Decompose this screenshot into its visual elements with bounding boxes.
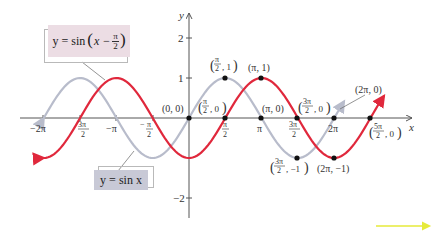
base-curve-legend: y = sin x [94, 170, 148, 190]
svg-text:2: 2 [376, 131, 380, 140]
svg-text:π: π [215, 55, 219, 64]
svg-text:): ) [326, 100, 331, 116]
xtick-minus-pi-2: −π2 [140, 120, 153, 139]
svg-text:2: 2 [223, 130, 227, 139]
svg-text:2: 2 [147, 130, 151, 139]
point-label-origin: (0, 0) [162, 103, 184, 115]
svg-text:2: 2 [203, 106, 207, 115]
paren-close: ) [120, 30, 126, 50]
svg-text:2: 2 [292, 130, 296, 139]
ytick-minus2: −2 [173, 192, 185, 204]
ytick-1: 1 [178, 72, 184, 84]
svg-text:3π: 3π [78, 120, 86, 129]
fraction-numerator: π [112, 32, 119, 42]
svg-text:): ) [222, 100, 227, 116]
svg-text:2: 2 [215, 64, 219, 73]
svg-text:3π: 3π [289, 120, 297, 129]
point-label-pi-0: (π, 0) [262, 103, 284, 115]
svg-text:5π: 5π [374, 122, 382, 131]
svg-text:π: π [203, 97, 207, 106]
point-label-pi2-1: (π2, 1) [210, 55, 238, 74]
xtick-pi: π [257, 123, 262, 134]
point-label-5pi2-0: (5π2, 0) [369, 122, 402, 141]
svg-text:, −1: , −1 [286, 164, 300, 174]
point-label-3pi2-0: (3π2, 0) [298, 97, 331, 116]
svg-text:π: π [223, 120, 227, 129]
svg-text:2: 2 [305, 106, 309, 115]
shifted-curve-legend: y = sin ( x − π 2 ) [48, 25, 130, 57]
shifted-legend-inner: x − [94, 34, 110, 49]
point-label-pi-1: (π, 1) [248, 62, 270, 74]
svg-text:, 0: , 0 [385, 129, 395, 139]
pi-over-2-fraction: π 2 [112, 32, 119, 51]
shifted-label-leader [82, 62, 105, 80]
y-axis-label: y [178, 9, 184, 21]
point-label-2pi-0: (2π, 0) [355, 84, 382, 96]
shifted-legend-prefix: y = sin [52, 34, 85, 49]
svg-text:, 1: , 1 [222, 62, 231, 72]
svg-text:, 0: , 0 [210, 104, 220, 114]
point-label-3pi2-minus1: (3π2, −1) [270, 157, 309, 176]
svg-text:3π: 3π [275, 157, 283, 166]
ytick-2: 2 [178, 32, 184, 44]
svg-text:): ) [397, 125, 402, 141]
paren-open: ( [87, 30, 93, 50]
svg-text:): ) [304, 160, 309, 176]
point-label-pi2-0: (π2, 0) [198, 97, 227, 116]
svg-text:, 0: , 0 [314, 104, 324, 114]
svg-text:2: 2 [81, 130, 85, 139]
xtick-pi-2: π2 [222, 120, 229, 139]
xtick-minus-3pi-2: 3π2 [78, 120, 89, 139]
fraction-denominator: 2 [113, 42, 118, 51]
xtick-minus-pi: −π [106, 123, 117, 134]
base-legend-text: y = sin x [100, 173, 142, 188]
xtick-3pi-2: 3π2 [289, 120, 300, 139]
x-axis-label: x [408, 121, 414, 133]
point-label-2pi-minus1: (2π, −1) [317, 163, 349, 175]
xtick-minus-2pi: −2π [30, 123, 46, 134]
xtick-2pi: 2π [328, 123, 338, 134]
svg-text:2: 2 [277, 166, 281, 175]
svg-text:): ) [233, 58, 238, 74]
svg-text:π: π [147, 120, 151, 129]
svg-text:3π: 3π [303, 97, 311, 106]
svg-text:−: − [140, 120, 145, 129]
